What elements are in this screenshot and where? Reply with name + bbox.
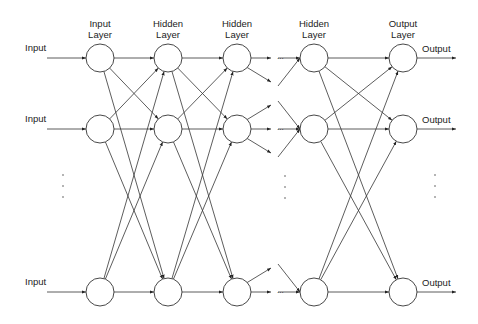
neuron-node-layer-2 <box>223 115 251 143</box>
neuron-node-layer-1 <box>154 44 182 72</box>
fan-out-edge <box>245 268 271 284</box>
fan-out-edge <box>245 137 271 153</box>
ellipsis-dot <box>434 196 436 198</box>
ellipsis-dots <box>62 174 436 199</box>
ellipsis-label: ... <box>277 122 284 133</box>
fan-out-edge <box>245 105 271 121</box>
layer-label-line2: Layer <box>217 29 257 40</box>
input-label: Input <box>25 276 46 287</box>
neuron-node-layer-4 <box>389 44 417 72</box>
neuron-node-layer-4 <box>389 115 417 143</box>
layer-label-line2: Layer <box>294 29 334 40</box>
layer-label-line1: Output <box>383 18 423 29</box>
neuron-node-layer-3 <box>300 278 328 306</box>
ellipsis-label: ... <box>277 285 284 296</box>
output-label: Output <box>422 43 451 54</box>
layer-label-line1: Input <box>80 18 120 29</box>
neuron-node-layer-1 <box>154 278 182 306</box>
layer-label-line1: Hidden <box>217 18 257 29</box>
fan-out-edge <box>245 66 271 82</box>
ellipsis-label: ... <box>277 51 284 62</box>
output-label: Output <box>422 277 451 288</box>
ellipsis-dot <box>62 185 64 187</box>
output-label: Output <box>422 114 451 125</box>
layer-label-line2: Layer <box>80 29 120 40</box>
neuron-node-layer-4 <box>389 278 417 306</box>
neural-network-diagram <box>0 0 478 324</box>
ellipsis-dot <box>284 197 286 199</box>
neuron-node-layer-0 <box>86 278 114 306</box>
connections <box>47 58 456 292</box>
layer-label-line1: Hidden <box>294 18 334 29</box>
ellipsis-dot <box>62 174 64 176</box>
ellipsis-dot <box>284 175 286 177</box>
neuron-node-layer-0 <box>86 44 114 72</box>
input-label: Input <box>25 113 46 124</box>
input-label: Input <box>25 42 46 53</box>
layer-label-line2: Layer <box>383 29 423 40</box>
layer-label-line2: Layer <box>148 29 188 40</box>
layer-label-line1: Hidden <box>148 18 188 29</box>
ellipsis-dot <box>284 186 286 188</box>
neuron-node-layer-2 <box>223 278 251 306</box>
neurons <box>86 44 417 306</box>
ellipsis-dot <box>62 196 64 198</box>
ellipsis-dot <box>434 174 436 176</box>
ellipsis-dot <box>434 185 436 187</box>
neuron-node-layer-3 <box>300 115 328 143</box>
fan-in-edge <box>278 129 300 157</box>
neuron-node-layer-0 <box>86 115 114 143</box>
fan-in-edge <box>278 58 300 86</box>
neuron-node-layer-3 <box>300 44 328 72</box>
neuron-node-layer-2 <box>223 44 251 72</box>
neuron-node-layer-1 <box>154 115 182 143</box>
